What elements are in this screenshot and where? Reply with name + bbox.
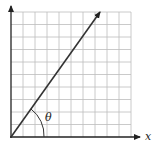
angle-diagram: θ x [0, 0, 154, 155]
theta-label: θ [45, 111, 52, 124]
angle-arc [31, 109, 44, 137]
grid [11, 12, 131, 137]
x-axis-label: x [145, 130, 152, 143]
